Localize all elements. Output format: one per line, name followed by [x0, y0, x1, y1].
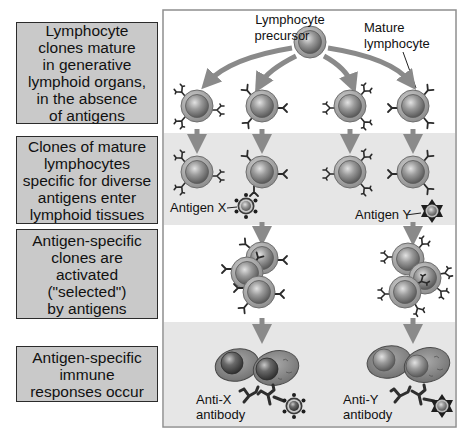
label-antigen-y: Antigen Y: [355, 207, 411, 222]
label-mature-2: lymphocyte: [364, 36, 430, 51]
label-anti-y-2: antibody: [343, 407, 393, 422]
label-antigen-x: Antigen X: [170, 200, 227, 215]
label-anti-x-1: Anti-X: [196, 392, 232, 407]
clonal-selection-diagram: Lymphocyte precursor Mature lymphocyte: [0, 0, 462, 439]
label-precursor-2: precursor: [255, 28, 311, 43]
label-mature-1: Mature: [364, 20, 404, 35]
label-precursor-1: Lymphocyte: [255, 12, 325, 27]
label-anti-y-1: Anti-Y: [343, 392, 379, 407]
label-anti-x-2: antibody: [196, 407, 246, 422]
